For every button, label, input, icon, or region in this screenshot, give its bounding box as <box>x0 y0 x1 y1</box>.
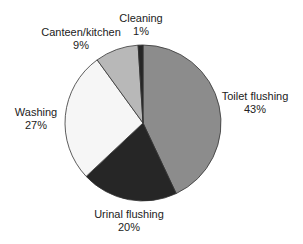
label-name: Urinal flushing <box>94 208 164 221</box>
label-canteen-kitchen: Canteen/kitchen 9% <box>41 26 121 52</box>
label-washing: Washing 27% <box>15 106 57 132</box>
label-pct: 9% <box>41 39 121 52</box>
label-name: Washing <box>15 106 57 119</box>
label-pct: 20% <box>94 221 164 234</box>
label-pct: 27% <box>15 119 57 132</box>
label-toilet-flushing: Toilet flushing 43% <box>222 90 289 116</box>
label-cleaning: Cleaning 1% <box>119 12 162 38</box>
label-name: Cleaning <box>119 12 162 25</box>
label-name: Toilet flushing <box>222 90 289 103</box>
label-name: Canteen/kitchen <box>41 26 121 39</box>
label-pct: 1% <box>119 25 162 38</box>
label-urinal-flushing: Urinal flushing 20% <box>94 208 164 234</box>
label-pct: 43% <box>222 103 289 116</box>
